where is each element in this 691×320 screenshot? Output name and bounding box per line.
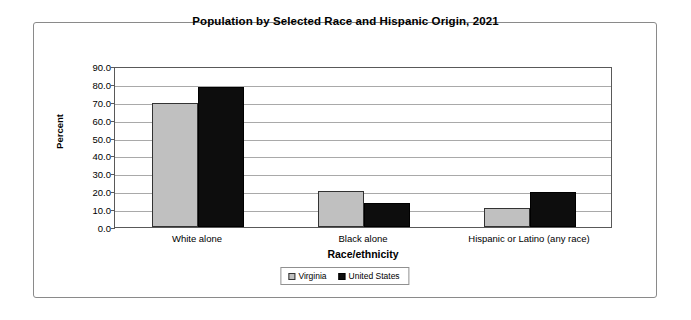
legend-label: Virginia — [298, 271, 326, 281]
y-axis-tick-label: 90.0 — [67, 62, 111, 73]
y-axis-tick-label: 70.0 — [67, 97, 111, 108]
chart-legend: VirginiaUnited States — [280, 267, 409, 285]
y-axis-tick-label: 80.0 — [67, 79, 111, 90]
plot-area — [114, 67, 612, 228]
y-axis-tick-label: 10.0 — [67, 205, 111, 216]
legend-label: United States — [349, 271, 400, 281]
bar-united-states — [198, 87, 244, 227]
bar-united-states — [364, 203, 410, 227]
y-axis-tick-label: 0.0 — [67, 223, 111, 234]
legend-swatch-icon — [288, 273, 295, 280]
bar-united-states — [530, 192, 576, 227]
x-axis-category-label: Black alone — [338, 233, 387, 244]
legend-item: Virginia — [288, 271, 326, 281]
x-axis-category-label: Hispanic or Latino (any race) — [468, 233, 589, 244]
y-axis-tick-label: 50.0 — [67, 133, 111, 144]
legend-swatch-icon — [339, 273, 346, 280]
bar-virginia — [318, 191, 364, 227]
bar-virginia — [152, 103, 198, 227]
y-axis-tick-mark — [111, 228, 115, 229]
x-axis-category-label: White alone — [172, 233, 222, 244]
y-axis-tick-label: 40.0 — [67, 151, 111, 162]
gridline — [115, 86, 611, 87]
chart-plot-wrapper: Percent 90.080.070.060.050.040.030.020.0… — [33, 22, 657, 298]
y-axis-tick-label: 60.0 — [67, 115, 111, 126]
legend-item: United States — [339, 271, 400, 281]
y-axis-tick-label: 30.0 — [67, 169, 111, 180]
bar-virginia — [484, 208, 530, 227]
y-axis-tick-label: 20.0 — [67, 187, 111, 198]
x-axis-title: Race/ethnicity — [114, 248, 612, 260]
y-axis-tick-labels: 90.080.070.060.050.040.030.020.010.00.0 — [61, 67, 111, 228]
